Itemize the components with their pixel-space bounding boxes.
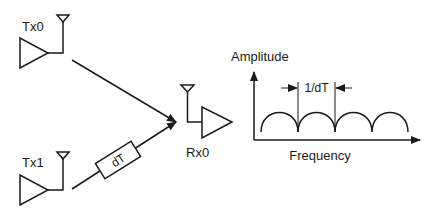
spacing-label: 1/dT — [304, 81, 329, 95]
amplifier-icon — [20, 175, 48, 205]
amplifier-icon — [202, 107, 232, 138]
signal-path-tx0 — [72, 60, 176, 122]
feed-line — [48, 21, 63, 53]
rx0-label: Rx0 — [186, 145, 209, 160]
antenna-icon — [181, 85, 194, 92]
feed-line — [188, 92, 203, 122]
y-axis-label: Amplitude — [231, 49, 289, 64]
receiver-rx0: Rx0 — [181, 85, 232, 160]
tx1-label: Tx1 — [22, 155, 44, 170]
spectrum-plot: Amplitude Frequency 1/dT — [231, 49, 420, 163]
tx0-label: Tx0 — [22, 19, 44, 34]
transmitter-tx1: Tx1 — [20, 152, 69, 205]
diagram-canvas: Tx0 Tx1 dT Rx0 Amplitude Frequency 1/dT — [0, 0, 434, 219]
feed-line — [48, 158, 63, 190]
x-axis-label: Frequency — [289, 148, 351, 163]
antenna-icon — [57, 152, 69, 159]
antenna-icon — [57, 15, 69, 22]
delay-block: dT — [95, 141, 140, 179]
transmitter-tx0: Tx0 — [20, 15, 69, 68]
amplifier-icon — [20, 38, 48, 68]
